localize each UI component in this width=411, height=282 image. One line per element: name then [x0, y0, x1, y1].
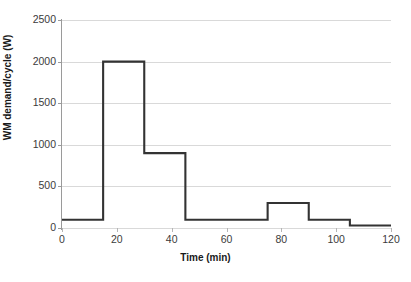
x-tick-mark [117, 228, 118, 232]
x-tick-label: 100 [316, 234, 356, 245]
x-tick-mark [336, 228, 337, 232]
x-tick-mark [227, 228, 228, 232]
x-axis-label: Time (min) [0, 252, 411, 263]
x-tick-label: 0 [42, 234, 82, 245]
y-tick-label: 500 [10, 180, 56, 191]
y-tick-label: 2000 [10, 56, 56, 67]
x-tick-mark [172, 228, 173, 232]
series-step-line [62, 20, 391, 228]
chart-figure: WM demand/cycle (W) 05001000150020002500… [0, 0, 411, 282]
x-tick-label: 80 [261, 234, 301, 245]
y-tick-label: 1500 [10, 97, 56, 108]
y-tick-label: 0 [10, 222, 56, 233]
x-tick-mark [281, 228, 282, 232]
x-tick-mark [391, 228, 392, 232]
x-tick-label: 120 [371, 234, 411, 245]
y-tick-label: 1000 [10, 139, 56, 150]
y-axis-label: WM demand/cycle (W) [2, 0, 13, 178]
x-tick-label: 60 [207, 234, 247, 245]
y-tick-label: 2500 [10, 14, 56, 25]
x-tick-label: 20 [97, 234, 137, 245]
x-tick-mark [62, 228, 63, 232]
x-tick-label: 40 [152, 234, 192, 245]
plot-area [62, 20, 391, 228]
